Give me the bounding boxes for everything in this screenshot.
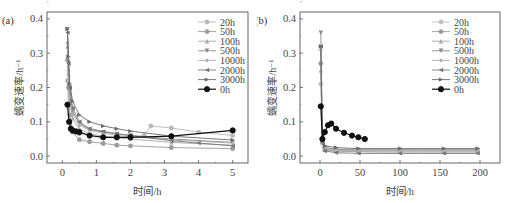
- legend-item-0h: 0h: [432, 84, 464, 95]
- legend-marker: [204, 87, 209, 92]
- legend-marker: [439, 58, 443, 62]
- data-point: [87, 133, 92, 138]
- data-point: [320, 136, 325, 141]
- data-point: [356, 135, 361, 140]
- creep-rate-chart-b: 0.00.10.20.30.4050100150200时间/h蠕变速率/h⁻¹(…: [257, 0, 515, 203]
- y-tick-label: 0.1: [30, 116, 43, 127]
- y-tick-label: 0.2: [30, 82, 43, 93]
- data-point: [114, 135, 119, 140]
- data-point: [101, 135, 106, 140]
- data-point: [67, 119, 72, 124]
- x-tick-label: 100: [392, 167, 408, 178]
- data-point: [169, 145, 173, 149]
- data-point: [101, 124, 105, 128]
- data-point: [115, 126, 119, 130]
- data-point: [128, 135, 133, 140]
- legend-marker: [439, 68, 443, 72]
- x-tick-label: 0: [60, 167, 65, 178]
- x-tick-label: 1: [94, 167, 99, 178]
- data-point: [87, 120, 91, 124]
- data-point: [65, 102, 70, 107]
- y-tick-label: 0.0: [283, 151, 296, 162]
- x-tick-label: 2: [128, 167, 133, 178]
- x-tick-label: 3: [162, 167, 167, 178]
- legend-marker: [439, 20, 443, 24]
- x-tick-label: 50: [355, 167, 366, 178]
- y-tick-label: 0.2: [283, 82, 296, 93]
- y-tick-label: 0.3: [30, 48, 43, 59]
- data-point: [362, 136, 367, 141]
- legend-marker: [439, 77, 443, 81]
- chart-panel-a: 0.00.10.20.30.4012345时间/h蠕变速率/h⁻¹(a)20h5…: [0, 0, 258, 203]
- data-point: [329, 121, 334, 126]
- x-tick-label: 4: [196, 167, 202, 178]
- y-tick-label: 0.4: [283, 13, 297, 24]
- legend-marker: [438, 87, 443, 92]
- plot-frame: [300, 12, 500, 163]
- panel-label: (b): [257, 15, 268, 27]
- y-tick-label: 0.3: [283, 48, 296, 59]
- data-point: [128, 129, 132, 133]
- chart-panel-b: 0.00.10.20.30.4050100150200时间/h蠕变速率/h⁻¹(…: [257, 0, 515, 203]
- legend-marker: [205, 29, 209, 33]
- y-tick-label: 0.4: [30, 13, 44, 24]
- data-point: [169, 126, 173, 130]
- legend-marker: [205, 77, 209, 81]
- data-point: [87, 140, 91, 144]
- data-point: [333, 126, 338, 131]
- x-tick-label: 0: [317, 167, 322, 178]
- x-axis-label: 时间/h: [133, 185, 162, 197]
- legend: 20h50h100h500h1000h2000h3000h0h: [432, 17, 479, 95]
- legend-marker: [205, 20, 209, 24]
- legend-marker: [439, 29, 443, 33]
- series-line: [67, 29, 232, 140]
- legend-label: 0h: [220, 84, 230, 95]
- data-point: [77, 130, 82, 135]
- data-point: [322, 130, 327, 135]
- panel-label: (a): [2, 15, 14, 27]
- legend-marker: [205, 68, 209, 72]
- data-point: [128, 144, 132, 148]
- series-0h: [65, 102, 235, 140]
- legend-label: 0h: [454, 84, 464, 95]
- data-point: [77, 137, 81, 141]
- series-0h: [318, 104, 367, 142]
- y-tick-label: 0.0: [30, 151, 43, 162]
- data-point: [318, 104, 323, 109]
- x-tick-label: 200: [472, 167, 488, 178]
- y-tick-label: 0.1: [283, 116, 296, 127]
- data-point: [115, 143, 119, 147]
- creep-rate-chart-a: 0.00.10.20.30.4012345时间/h蠕变速率/h⁻¹(a)20h5…: [0, 0, 258, 203]
- data-point: [230, 133, 234, 137]
- data-point: [349, 133, 354, 138]
- data-point: [149, 124, 153, 128]
- y-axis-label: 蠕变速率/h⁻¹: [13, 59, 25, 115]
- legend-item-0h: 0h: [198, 84, 230, 95]
- x-axis-label: 时间/h: [386, 185, 415, 197]
- x-tick-label: 5: [230, 167, 235, 178]
- series-100h: [65, 44, 235, 147]
- series-line: [67, 105, 232, 138]
- legend: 20h50h100h500h1000h2000h3000h0h: [198, 17, 245, 95]
- data-point: [341, 130, 346, 135]
- data-point: [230, 128, 235, 133]
- data-point: [101, 141, 105, 145]
- x-tick-label: 150: [432, 167, 448, 178]
- y-axis-label: 蠕变速率/h⁻¹: [266, 59, 278, 115]
- data-point: [169, 134, 174, 139]
- data-point: [319, 30, 323, 34]
- legend-marker: [205, 58, 209, 62]
